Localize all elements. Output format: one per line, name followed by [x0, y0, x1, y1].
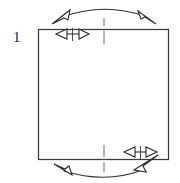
top-arc-right-arrowhead [138, 11, 156, 24]
square-outline [39, 30, 169, 160]
bottom-right-small-arrow [124, 146, 157, 159]
square-shape [39, 30, 169, 160]
technical-diagram: 1 [0, 0, 180, 183]
bottom-arc-left-arrowhead [54, 164, 72, 175]
bottom-right-arrow-right-head [146, 147, 157, 157]
top-left-arrow-right-head [79, 29, 89, 39]
top-left-arrow-left-head [56, 29, 67, 39]
top-arc-left-arrowhead [52, 10, 70, 24]
top-arc-path [62, 9, 144, 17]
bottom-arc-path [64, 170, 142, 177]
bottom-right-arrow-left-head [124, 147, 135, 157]
figure-container: 1 [0, 0, 180, 183]
bottom-arc-arrow [54, 155, 158, 177]
figure-label: 1 [13, 29, 21, 45]
